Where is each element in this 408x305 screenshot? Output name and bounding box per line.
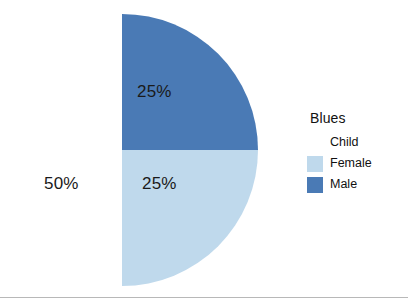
legend-item-male[interactable]: Male bbox=[307, 175, 405, 194]
bottom-strip bbox=[0, 298, 408, 305]
pie-svg bbox=[0, 0, 290, 296]
slice-label-child: 50% bbox=[44, 174, 79, 194]
legend-title: Blues bbox=[310, 110, 405, 126]
plot-area: 25% 25% 50% bbox=[0, 0, 290, 296]
slice-label-male: 25% bbox=[137, 82, 172, 102]
legend-item-child[interactable]: Child bbox=[307, 133, 405, 152]
legend: Blues Child Female Male bbox=[307, 110, 405, 196]
legend-label-child: Child bbox=[330, 136, 359, 149]
pie-chart-figure: 25% 25% 50% Blues Child Female Male bbox=[0, 0, 408, 305]
legend-item-female[interactable]: Female bbox=[307, 154, 405, 173]
pie-slice-child[interactable] bbox=[0, 14, 122, 286]
pie-slice-female[interactable] bbox=[122, 150, 258, 286]
legend-swatch-child-icon bbox=[307, 135, 323, 151]
legend-label-male: Male bbox=[330, 178, 357, 191]
legend-label-female: Female bbox=[330, 157, 372, 170]
legend-swatch-male-icon bbox=[307, 177, 323, 193]
legend-swatch-female-icon bbox=[307, 156, 323, 172]
slice-label-female: 25% bbox=[142, 174, 177, 194]
